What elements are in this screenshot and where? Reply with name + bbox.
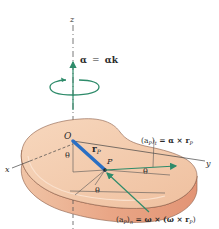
origin-label: O	[64, 131, 72, 141]
point-p-label: P	[106, 157, 113, 166]
rotating-body-diagram: z x y α =	[0, 0, 219, 229]
theta-label-1: θ	[65, 151, 70, 160]
normal-accel-label: (aP)n = ω × (ω × rP)	[116, 215, 196, 225]
y-axis-label: y	[205, 159, 211, 168]
rotation-curl-icon	[50, 78, 99, 96]
z-axis: z	[69, 15, 75, 130]
x-axis-label: x	[5, 165, 10, 174]
theta-label-2: θ	[143, 167, 148, 176]
alpha-label: α = αk	[80, 55, 119, 65]
tangential-accel-label: (aP)t = α × rP	[141, 136, 193, 146]
theta-label-3: θ	[95, 186, 100, 195]
z-axis-label: z	[69, 15, 75, 24]
